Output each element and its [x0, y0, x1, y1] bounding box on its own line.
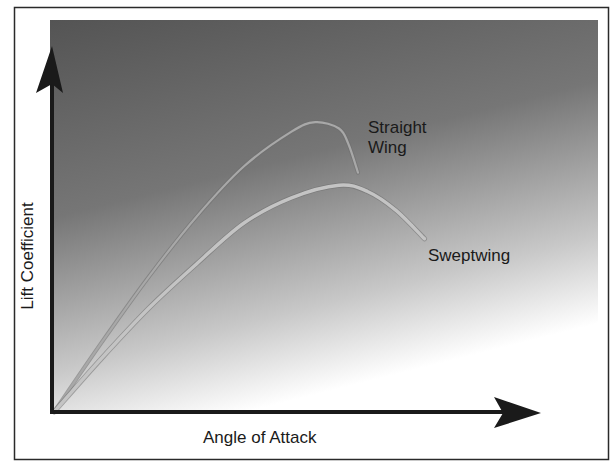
- straight-wing-label-line-2: Wing: [368, 138, 427, 158]
- y-axis-label: Lift Coefficient: [18, 202, 38, 309]
- lift-vs-angle-diagram: [0, 0, 614, 468]
- x-axis-label: Angle of Attack: [203, 428, 316, 448]
- sweptwing-label: Sweptwing: [428, 246, 510, 266]
- straight-wing-label: Straight Wing: [368, 118, 427, 158]
- straight-wing-label-line-1: Straight: [368, 118, 427, 138]
- plot-background: [50, 20, 598, 413]
